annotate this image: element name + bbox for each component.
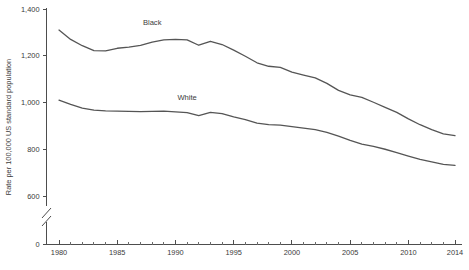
y-tick-label-600: 600: [27, 192, 39, 201]
series-label-group: BlackWhite: [143, 18, 197, 101]
series-label-white: White: [177, 93, 196, 102]
x-tick-label-2014: 2014: [447, 248, 463, 257]
y-tick-label-group: 06008001,0001,2001,400: [21, 5, 40, 250]
x-tick-label-2005: 2005: [342, 248, 358, 257]
x-tick-label-2010: 2010: [400, 248, 416, 257]
y-axis-title: Rate per 100,000 US standard population: [4, 59, 13, 195]
series-label-black: Black: [143, 18, 162, 27]
series-line-white: [59, 100, 455, 165]
y-tick-label-1000: 1,000: [21, 98, 40, 107]
series-line-black: [59, 30, 455, 136]
y-tick-label-800: 800: [27, 145, 39, 154]
x-tick-label-group: 19801985199019952000200520102014: [51, 248, 463, 257]
x-tick-label-1985: 1985: [109, 248, 125, 257]
x-tick-label-1980: 1980: [51, 248, 67, 257]
x-tick-label-2000: 2000: [284, 248, 300, 257]
y-tick-label-0: 0: [35, 240, 39, 249]
y-tick-label-1200: 1,200: [21, 51, 40, 60]
y-tick-group: [43, 9, 47, 245]
y-axis-group: [42, 8, 51, 245]
x-tick-label-1995: 1995: [225, 248, 241, 257]
x-tick-label-1990: 1990: [167, 248, 183, 257]
chart-container: 06008001,0001,2001,400 19801985199019952…: [0, 0, 469, 270]
y-tick-label-1400: 1,400: [21, 5, 40, 14]
line-chart: 06008001,0001,2001,400 19801985199019952…: [0, 0, 469, 270]
series-group: [59, 30, 455, 165]
